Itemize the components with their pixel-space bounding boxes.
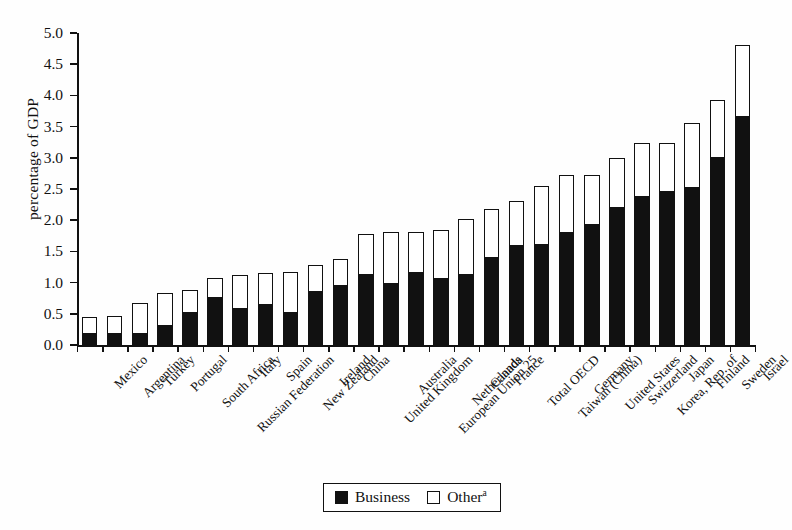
bar-segment-business — [409, 272, 423, 344]
bar-stacked — [559, 175, 575, 345]
bar-stacked — [383, 232, 399, 345]
y-axis-tick — [70, 251, 77, 253]
chart-legend: Business Othera — [323, 483, 501, 512]
x-axis-tick — [177, 345, 178, 352]
bar-segment-business — [510, 245, 524, 344]
x-axis-tick — [680, 345, 681, 352]
bar-stacked — [458, 219, 474, 345]
y-axis-tick-label: 3.5 — [19, 119, 63, 135]
legend-footnote-marker: a — [482, 488, 486, 498]
bar-stacked — [207, 278, 223, 345]
x-axis-tick — [228, 345, 229, 352]
x-axis-tick — [730, 345, 731, 352]
y-axis-tick — [70, 188, 77, 190]
bar-segment-business — [309, 291, 323, 344]
y-axis-tick-label: 4.0 — [19, 87, 63, 103]
bar-stacked — [484, 209, 500, 345]
x-axis-tick — [755, 345, 756, 352]
bar-stacked — [408, 232, 424, 345]
bar-stacked — [333, 259, 349, 345]
bar-stacked — [534, 186, 550, 345]
y-axis-tick-label: 0.0 — [19, 337, 63, 353]
x-axis-tick — [504, 345, 505, 352]
bar-stacked — [710, 100, 726, 345]
y-axis-tick — [70, 32, 77, 34]
legend-item-business: Business — [335, 488, 410, 506]
bar-segment-business — [585, 224, 599, 344]
bar-stacked — [735, 45, 751, 345]
bar-segment-business — [560, 232, 574, 344]
bar-stacked — [433, 230, 449, 345]
bar-segment-business — [711, 157, 725, 344]
bar-segment-business — [434, 278, 448, 344]
bar-segment-business — [384, 283, 398, 344]
bar-stacked — [358, 234, 374, 345]
bar-segment-business — [685, 187, 699, 344]
bar-stacked — [609, 158, 625, 345]
x-axis-tick — [604, 345, 605, 352]
bar-stacked — [258, 273, 274, 345]
x-axis-tick — [378, 345, 379, 352]
y-axis-tick — [70, 219, 77, 221]
bar-stacked — [132, 303, 148, 345]
x-axis-tick — [454, 345, 455, 352]
x-axis-tick — [102, 345, 103, 352]
bar-stacked — [107, 316, 123, 345]
bar-segment-business — [359, 274, 373, 345]
legend-swatch-business — [335, 491, 348, 504]
bar-segment-business — [158, 325, 172, 344]
y-axis-tick-label: 4.5 — [19, 56, 63, 72]
x-axis-tick — [253, 345, 254, 352]
x-axis-tick — [629, 345, 630, 352]
y-axis-tick-label: 1.0 — [19, 275, 63, 291]
x-axis-tick — [579, 345, 580, 352]
bar-segment-business — [284, 312, 298, 344]
plot-area: 0.00.51.01.52.02.53.03.54.04.55.0 — [77, 33, 755, 345]
y-axis-tick — [70, 157, 77, 159]
y-axis-tick — [70, 95, 77, 97]
bar-segment-business — [485, 257, 499, 344]
bar-segment-business — [535, 244, 549, 344]
legend-item-other: Othera — [427, 488, 487, 506]
x-axis-tick — [77, 345, 78, 352]
x-axis-tick — [429, 345, 430, 352]
legend-label-business: Business — [355, 488, 410, 506]
bar-segment-business — [635, 196, 649, 344]
x-axis-tick — [278, 345, 279, 352]
y-axis-tick-label: 2.0 — [19, 212, 63, 228]
legend-label-other: Othera — [447, 488, 487, 506]
bar-segment-business — [108, 333, 122, 344]
x-axis-tick — [353, 345, 354, 352]
bar-stacked — [659, 143, 675, 345]
bar-segment-business — [459, 274, 473, 344]
bar-stacked — [634, 143, 650, 345]
bar-segment-business — [660, 191, 674, 344]
x-axis-tick — [203, 345, 204, 352]
y-axis-tick-label: 2.5 — [19, 181, 63, 197]
x-axis-tick — [479, 345, 480, 352]
y-axis-tick — [70, 282, 77, 284]
x-axis-tick — [403, 345, 404, 352]
bar-segment-business — [208, 297, 222, 344]
bar-segment-business — [736, 116, 750, 344]
bar-stacked — [509, 201, 525, 345]
bar-stacked — [82, 317, 98, 345]
bar-stacked — [283, 272, 299, 345]
y-axis-tick-label: 1.5 — [19, 243, 63, 259]
bar-segment-business — [334, 285, 348, 344]
y-axis-tick — [70, 63, 77, 65]
y-axis-tick-label: 0.5 — [19, 306, 63, 322]
y-axis-tick — [70, 344, 77, 346]
bar-segment-business — [83, 333, 97, 344]
y-axis-tick-label: 3.0 — [19, 150, 63, 166]
bar-segment-business — [233, 308, 247, 344]
bar-stacked — [232, 275, 248, 346]
bar-stacked — [684, 123, 700, 345]
bar-segment-business — [183, 312, 197, 344]
legend-swatch-other — [427, 491, 440, 504]
y-axis-tick — [70, 126, 77, 128]
bar-stacked — [308, 265, 324, 345]
x-axis-tick — [655, 345, 656, 352]
x-axis-tick — [328, 345, 329, 352]
